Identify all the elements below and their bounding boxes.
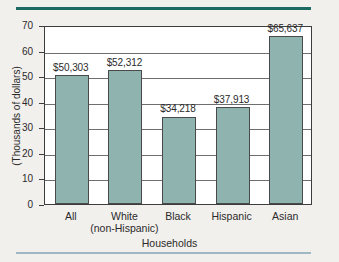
y-axis-tick xyxy=(39,52,44,53)
bar xyxy=(216,107,250,204)
bar-value-label: $50,303 xyxy=(41,62,101,73)
bar xyxy=(108,70,142,204)
y-axis-tick-label: 40 xyxy=(9,97,33,108)
top-divider-rule xyxy=(16,7,311,10)
bar-value-label: $34,218 xyxy=(148,103,208,114)
y-axis-tick xyxy=(39,205,44,206)
y-axis-tick xyxy=(39,179,44,180)
bar xyxy=(269,36,303,204)
bar-value-label: $37,913 xyxy=(202,94,262,105)
y-axis-tick-label: 70 xyxy=(9,20,33,31)
y-axis-tick xyxy=(39,128,44,129)
plot-area xyxy=(44,26,312,205)
figure-container: (Thousands of dollars) Households 010203… xyxy=(0,0,339,262)
y-axis-tick xyxy=(39,77,44,78)
x-axis-title: Households xyxy=(0,237,339,249)
x-axis-category-label: Asian xyxy=(240,210,330,222)
y-axis-tick xyxy=(39,154,44,155)
y-axis-tick-label: 30 xyxy=(9,122,33,133)
bar xyxy=(162,117,196,205)
y-axis-tick-label: 10 xyxy=(9,173,33,184)
y-axis-tick xyxy=(39,103,44,104)
y-axis-tick-label: 60 xyxy=(9,46,33,57)
bar xyxy=(55,75,89,204)
y-axis-tick xyxy=(39,26,44,27)
bar-value-label: $52,312 xyxy=(94,57,154,68)
x-axis-category-label-line2: (non-Hispanic) xyxy=(79,222,169,234)
bottom-divider-rule xyxy=(16,252,311,254)
bar-value-label: $65,637 xyxy=(255,23,315,34)
y-axis-tick-label: 0 xyxy=(9,199,33,210)
y-axis-tick-label: 50 xyxy=(9,71,33,82)
y-axis-tick-label: 20 xyxy=(9,148,33,159)
